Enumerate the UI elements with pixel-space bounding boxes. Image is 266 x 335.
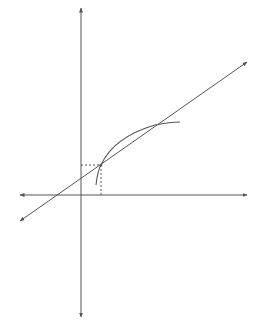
straight-line <box>20 62 247 221</box>
intersection-point <box>100 164 103 167</box>
diagram-canvas <box>0 0 266 335</box>
diagram-figure <box>0 0 266 335</box>
concave-curve <box>96 122 180 185</box>
